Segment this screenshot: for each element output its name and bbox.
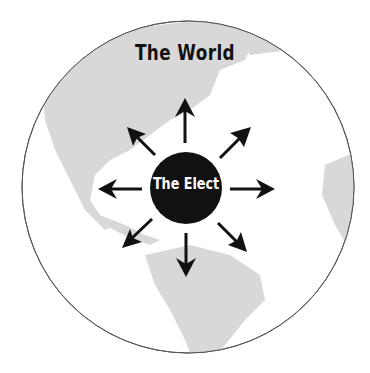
elect-label: The Elect: [144, 175, 229, 193]
world-label: The World: [28, 40, 343, 65]
diagram-stage: The World The Elect: [0, 0, 370, 373]
